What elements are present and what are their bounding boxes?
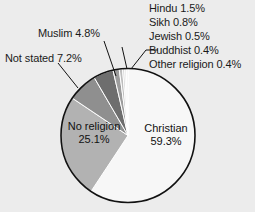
label-no-religion-pct: 25.1%: [58, 133, 130, 146]
label-sikh: Sikh 0.8%: [149, 16, 198, 29]
label-muslim: Muslim 4.8%: [38, 27, 100, 40]
leader-line-thin-group: [131, 50, 146, 69]
label-jewish: Jewish 0.5%: [149, 30, 210, 43]
leader-line-hindu: [122, 47, 127, 69]
label-no-religion-name: No religion: [68, 120, 121, 132]
label-christian: Christian 59.3%: [132, 122, 200, 148]
label-not-stated: Not stated 7.2%: [5, 52, 82, 65]
label-christian-pct: 59.3%: [132, 135, 200, 148]
chart-canvas: Hindu 1.5% Sikh 0.8% Jewish 0.5% Buddhis…: [0, 0, 255, 212]
label-no-religion: No religion 25.1%: [58, 120, 130, 146]
label-buddhist: Buddhist 0.4%: [149, 44, 219, 57]
leader-line-not-stated: [58, 63, 78, 88]
label-other-religion: Other religion 0.4%: [149, 58, 241, 71]
label-christian-name: Christian: [144, 122, 187, 134]
label-hindu: Hindu 1.5%: [149, 2, 205, 15]
